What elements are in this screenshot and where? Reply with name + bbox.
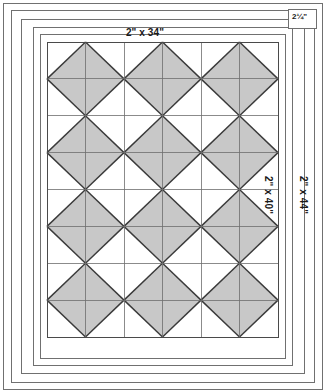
quilt-diagram-svg: [0, 0, 325, 392]
outer-right-border-dimension-label: 2" x 44": [298, 176, 308, 214]
top-border-dimension-label: 2" x 34": [0, 28, 290, 38]
inner-right-border-dimension-label: 2" x 40": [263, 176, 273, 214]
corner-measure-label: 2¼": [292, 13, 307, 21]
quilt-diagram-stage: 2" x 34" 2" x 40" 2" x 44" 2¼": [0, 0, 325, 392]
